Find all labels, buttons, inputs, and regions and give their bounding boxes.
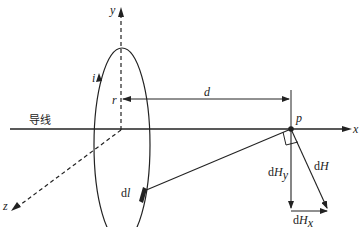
point-p-label: p	[295, 111, 302, 125]
dH-label: dH	[314, 159, 330, 173]
radius-label: r	[112, 93, 117, 107]
magnetic-field-diagram: y z x 导线 i r d p dl dH dHy dHx	[0, 0, 361, 227]
dl-to-p-line	[144, 129, 291, 191]
y-axis-label: y	[109, 3, 116, 17]
z-axis-arrow-icon	[11, 202, 21, 211]
z-axis	[16, 130, 121, 208]
current-direction-arrow-icon	[96, 73, 102, 82]
wire-label: 导线	[29, 113, 51, 127]
dl-label: dl	[121, 186, 131, 200]
z-axis-label: z	[2, 199, 8, 213]
x-axis-label: x	[352, 122, 359, 136]
dHx-label: dHx	[293, 213, 314, 227]
distance-label: d	[204, 85, 211, 99]
y-axis-arrow-icon	[118, 7, 124, 17]
x-axis-arrow-icon	[342, 126, 352, 132]
current-label: i	[92, 71, 95, 85]
distance-start-arrow-icon	[122, 96, 131, 102]
dHy-label: dHy	[268, 165, 289, 182]
